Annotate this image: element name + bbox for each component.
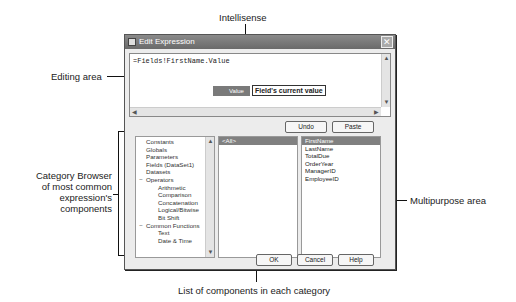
list-item[interactable]: <All>	[219, 137, 297, 145]
category-label: Arithmetic	[158, 184, 186, 191]
callout-category-browser-line-4: components	[4, 203, 112, 214]
paste-button[interactable]: Paste	[332, 121, 374, 133]
callout-multipurpose-area: Multipurpose area	[410, 195, 486, 206]
category-scrollbar[interactable]: ▲ ▼	[205, 137, 214, 257]
list-item[interactable]: ManagerID	[302, 167, 380, 175]
list-item[interactable]: EmployeeID	[302, 175, 380, 183]
editor-horizontal-scrollbar[interactable]: ◀ ▶	[130, 107, 381, 116]
multipurpose-items: FirstNameLastNameTotalDueOrderYearManage…	[302, 137, 380, 183]
list-item[interactable]: LastName	[302, 145, 380, 153]
category-item[interactable]: −Operators	[136, 176, 214, 184]
collapse-icon[interactable]: −	[138, 176, 144, 184]
category-label: Text	[158, 229, 169, 236]
list-item[interactable]: TotalDue	[302, 152, 380, 160]
scroll-up-icon[interactable]: ▲	[206, 137, 215, 146]
window-icon	[128, 38, 136, 46]
callout-editing-area: Editing area	[51, 71, 102, 82]
callout-intellisense: Intellisense	[219, 12, 267, 23]
callout-components-list: List of components in each category	[178, 285, 330, 296]
category-browser[interactable]: ConstantsGlobalsParametersFields (DataSe…	[135, 136, 215, 258]
callout-category-browser-line-3: expression's	[4, 192, 112, 203]
bracket-vertical	[118, 131, 119, 255]
category-item[interactable]: Constants	[136, 138, 214, 146]
expression-editor[interactable]: =Fields!FirstName.Value Value Field's cu…	[129, 53, 391, 117]
category-label: Comparison	[158, 191, 191, 198]
scroll-down-icon[interactable]: ▼	[382, 98, 391, 107]
category-item[interactable]: Fields (DataSet1)	[136, 161, 214, 169]
editor-vertical-scrollbar[interactable]: ▲ ▼	[381, 54, 390, 107]
callout-category-browser: Category Browser of most common expressi…	[4, 170, 112, 214]
category-label: Globals	[146, 146, 167, 153]
category-item[interactable]: Globals	[136, 146, 214, 154]
category-item[interactable]: Bit Shift	[136, 214, 214, 222]
close-button[interactable]: ✕	[381, 36, 393, 48]
category-label: Datasets	[146, 168, 170, 175]
category-label: Common Functions	[146, 222, 200, 229]
category-item[interactable]: −Common Functions	[136, 222, 214, 230]
category-item[interactable]: Text	[136, 229, 214, 237]
callout-category-browser-line-1: Category Browser	[4, 170, 112, 181]
multipurpose-area[interactable]: FirstNameLastNameTotalDueOrderYearManage…	[301, 136, 381, 258]
category-label: Parameters	[146, 153, 178, 160]
category-label: Concatenation	[158, 199, 198, 206]
help-button[interactable]: Help	[338, 254, 374, 266]
category-list: ConstantsGlobalsParametersFields (DataSe…	[136, 137, 214, 244]
category-item[interactable]: Logical/Bitwise	[136, 206, 214, 214]
expression-text[interactable]: =Fields!FirstName.Value	[133, 57, 230, 65]
undo-button[interactable]: Undo	[285, 121, 327, 133]
close-icon: ✕	[383, 37, 391, 47]
collapse-icon[interactable]: −	[138, 222, 144, 230]
intellisense-tooltip: Field's current value	[252, 85, 326, 96]
category-item[interactable]: Concatenation	[136, 199, 214, 207]
category-label: Fields (DataSet1)	[146, 161, 194, 168]
scroll-down-icon[interactable]: ▼	[206, 248, 215, 257]
category-item[interactable]: Comparison	[136, 191, 214, 199]
category-item[interactable]: Date & Time	[136, 237, 214, 245]
category-label: Logical/Bitwise	[158, 206, 199, 213]
category-item[interactable]: Datasets	[136, 168, 214, 176]
title-bar[interactable]: Edit Expression ✕	[125, 35, 395, 49]
ok-button[interactable]: OK	[256, 254, 292, 266]
category-label: Constants	[146, 138, 174, 145]
components-items: <All>	[219, 137, 297, 145]
components-list[interactable]: <All>	[218, 136, 298, 258]
list-item[interactable]: FirstName	[302, 137, 380, 145]
intellisense-item-value[interactable]: Value	[213, 86, 250, 96]
scroll-right-icon[interactable]: ▶	[372, 108, 381, 117]
callout-category-browser-line-2: of most common	[4, 181, 112, 192]
edit-expression-dialog: Edit Expression ✕ =Fields!FirstName.Valu…	[124, 34, 396, 270]
intellisense-popup: Value Field's current value	[213, 85, 326, 96]
cancel-button[interactable]: Cancel	[297, 254, 333, 266]
list-item[interactable]: OrderYear	[302, 160, 380, 168]
scroll-up-icon[interactable]: ▲	[382, 54, 391, 63]
scroll-left-icon[interactable]: ◀	[130, 108, 139, 117]
category-item[interactable]: Parameters	[136, 153, 214, 161]
category-item[interactable]: Arithmetic	[136, 184, 214, 192]
dialog-title: Edit Expression	[139, 37, 195, 46]
category-label: Bit Shift	[158, 214, 179, 221]
bracket-tick	[113, 194, 119, 195]
category-label: Operators	[146, 176, 174, 183]
category-label: Date & Time	[158, 237, 192, 244]
